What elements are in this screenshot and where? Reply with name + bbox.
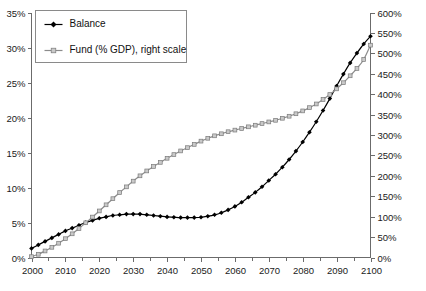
data-point-marker — [165, 156, 169, 160]
y-axis-left-tick-label: 10% — [6, 183, 26, 194]
data-point-marker — [152, 165, 156, 169]
data-point-marker — [341, 81, 345, 85]
data-series — [29, 34, 373, 259]
data-point-marker — [240, 127, 244, 131]
data-point-marker — [125, 185, 129, 189]
x-axis-tick-label: 2100 — [361, 265, 382, 276]
data-point-marker — [213, 134, 217, 138]
x-axis-tick-label: 2060 — [225, 265, 246, 276]
y-axis-left-tick-label: 5% — [12, 218, 26, 229]
data-point-marker — [348, 74, 352, 78]
data-point-marker — [233, 128, 237, 132]
data-point-marker — [131, 179, 135, 183]
y-axis-right-tick-label: 200% — [378, 171, 403, 182]
data-point-marker — [117, 213, 122, 218]
data-point-marker — [151, 213, 156, 218]
data-point-marker — [70, 232, 74, 236]
x-axis-tick-label: 2020 — [89, 265, 110, 276]
y-axis-left-tick-label: 35% — [6, 8, 26, 19]
data-point-marker — [328, 96, 333, 101]
data-point-marker — [104, 215, 109, 220]
data-point-marker — [158, 160, 162, 164]
data-point-marker — [124, 212, 129, 217]
data-point-marker — [253, 123, 257, 127]
data-point-marker — [321, 98, 325, 102]
y-axis-right-tick-label: 0% — [378, 253, 392, 264]
y-axis-right-tick-label: 350% — [378, 110, 403, 121]
chart-container: 0%5%10%15%20%25%30%35%0%50%100%150%200%2… — [0, 0, 426, 291]
data-point-marker — [287, 114, 291, 118]
data-point-marker — [158, 214, 163, 219]
data-point-marker — [36, 252, 40, 256]
square-marker — [51, 48, 56, 53]
data-point-marker — [205, 214, 210, 219]
data-point-marker — [314, 102, 318, 106]
data-point-marker — [138, 212, 143, 217]
data-point-marker — [97, 209, 101, 213]
data-point-marker — [185, 215, 190, 220]
data-point-marker — [260, 122, 264, 126]
data-point-marker — [192, 215, 197, 220]
data-point-marker — [369, 43, 373, 47]
y-axis-right-tick-label: 250% — [378, 150, 403, 161]
y-axis-right-tick-label: 100% — [378, 212, 403, 223]
y-axis-left-tick-label: 30% — [6, 43, 26, 54]
y-axis-right-tick-label: 450% — [378, 69, 403, 80]
data-point-marker — [179, 149, 183, 153]
y-axis-right-tick-label: 300% — [378, 130, 403, 141]
data-point-marker — [91, 215, 95, 219]
data-point-marker — [335, 87, 339, 91]
data-point-marker — [165, 215, 170, 220]
y-axis-left-tick-label: 0% — [12, 253, 26, 264]
data-point-marker — [199, 139, 203, 143]
data-point-marker — [301, 109, 305, 113]
data-point-marker — [178, 215, 183, 220]
data-point-marker — [226, 208, 231, 213]
data-point-marker — [219, 132, 223, 136]
data-point-marker — [56, 232, 61, 237]
data-point-marker — [328, 93, 332, 97]
data-point-marker — [50, 245, 54, 249]
data-point-marker — [29, 246, 34, 251]
data-point-marker — [111, 213, 116, 218]
data-point-marker — [77, 227, 81, 231]
legend-label: Balance — [70, 18, 107, 29]
data-point-marker — [30, 255, 34, 259]
data-point-marker — [145, 169, 149, 173]
line-chart: 0%5%10%15%20%25%30%35%0%50%100%150%200%2… — [0, 0, 426, 291]
y-axis-right-tick-label: 550% — [378, 28, 403, 39]
y-axis-right-tick-label: 500% — [378, 48, 403, 59]
data-point-marker — [192, 142, 196, 146]
x-axis-tick-label: 2010 — [55, 265, 76, 276]
data-point-marker — [172, 153, 176, 157]
y-axis-right-tick-label: 600% — [378, 8, 403, 19]
x-axis-tick-label: 2000 — [22, 265, 43, 276]
data-point-marker — [219, 210, 224, 215]
data-point-marker — [118, 191, 122, 195]
data-point-marker — [36, 243, 41, 248]
data-point-marker — [280, 116, 284, 120]
y-axis-left-tick-label: 20% — [6, 113, 26, 124]
data-point-marker — [138, 174, 142, 178]
data-point-marker — [57, 241, 61, 245]
data-point-marker — [308, 106, 312, 110]
x-axis-tick-label: 2090 — [327, 265, 348, 276]
data-point-marker — [70, 226, 75, 231]
data-point-marker — [355, 67, 359, 71]
data-point-marker — [206, 136, 210, 140]
data-point-marker — [97, 216, 102, 221]
series-fund — [30, 43, 373, 258]
y-axis-left-tick-label: 25% — [6, 78, 26, 89]
y-axis-right-tick-label: 50% — [378, 232, 398, 243]
data-point-marker — [226, 130, 230, 134]
data-point-marker — [294, 112, 298, 116]
y-axis-right-tick-label: 150% — [378, 191, 403, 202]
x-axis-tick-label: 2050 — [191, 265, 212, 276]
x-axis-tick-label: 2040 — [157, 265, 178, 276]
series-line — [32, 45, 371, 257]
data-point-marker — [172, 215, 177, 220]
data-point-marker — [43, 249, 47, 253]
data-point-marker — [50, 236, 55, 241]
data-point-marker — [111, 197, 115, 201]
data-point-marker — [199, 215, 204, 220]
